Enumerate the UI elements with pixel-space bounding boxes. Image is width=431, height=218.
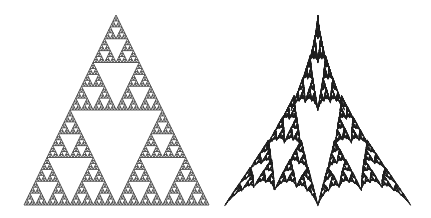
distorted-sierpinski-panel [0,0,431,218]
fractal-figure [0,0,431,218]
